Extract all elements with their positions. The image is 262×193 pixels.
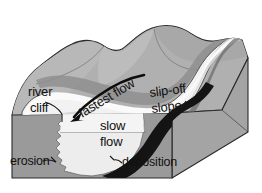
scene-contents: river cliff fastest flow slip-off slope … [10, 26, 254, 178]
river-meander-diagram: river cliff fastest flow slip-off slope … [0, 0, 262, 193]
label-slow-flow-line2: flow [100, 134, 123, 149]
label-river-cliff-line2: cliff [30, 100, 49, 115]
label-erosion: erosion [10, 154, 50, 168]
label-deposition: deposition [122, 155, 177, 169]
label-slow-flow-line1: slow [100, 118, 126, 133]
block-diagram-canvas: river cliff fastest flow slip-off slope … [0, 0, 262, 193]
label-river-cliff-line1: river [28, 84, 53, 99]
